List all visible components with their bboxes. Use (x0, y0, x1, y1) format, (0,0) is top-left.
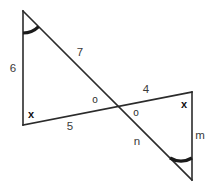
label-right-vertical-side: m (195, 129, 205, 141)
angle-mark-right-top: x (181, 98, 188, 110)
label-long-diagonal-lower: n (134, 135, 140, 147)
angle-arc-top-apex (23, 27, 39, 33)
angle-mark-vertical-right: o (133, 107, 139, 118)
label-long-diagonal-upper: 7 (77, 46, 83, 58)
angle-arc-bottom-apex (170, 158, 192, 161)
segment-long-diagonal (23, 11, 192, 180)
label-lower-base-left: 5 (67, 120, 73, 132)
segment-transversal (23, 92, 192, 125)
geometry-diagram: 6 7 5 4 n m x x o o (0, 0, 214, 193)
angle-mark-left-base: x (28, 108, 35, 120)
geometry-figure: 6 7 5 4 n m x x o o (0, 0, 214, 193)
label-upper-base-right: 4 (143, 83, 150, 95)
angle-mark-vertical-left: o (92, 94, 98, 105)
label-left-vertical-side: 6 (10, 62, 16, 74)
